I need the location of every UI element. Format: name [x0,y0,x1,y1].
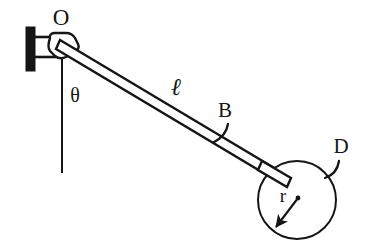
label-pivot-O: O [53,5,70,30]
label-radius-r: r [280,185,287,206]
label-rod-point-B: B [218,98,232,122]
pendulum-figure: O θ ℓ B D r [0,0,368,247]
rod-body [56,40,291,187]
label-rod-length-ell: ℓ [171,74,181,100]
label-disk-D: D [333,134,348,158]
wall-mount-bar [26,27,35,71]
pendulum-diagram-canvas: O θ ℓ B D r [0,0,368,247]
label-angle-theta: θ [70,84,80,106]
pendulum-rod [56,40,291,187]
